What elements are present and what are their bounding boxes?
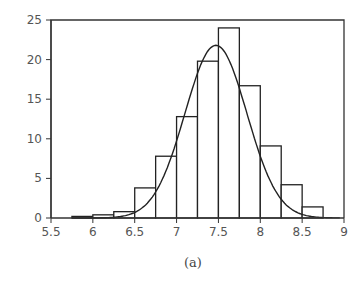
- y-tick-label: 20: [27, 53, 42, 67]
- x-tick-label: 7.5: [209, 225, 228, 239]
- x-tick-label: 7: [173, 225, 181, 239]
- x-tick-label: 6.5: [125, 225, 144, 239]
- y-tick-label: 15: [27, 92, 42, 106]
- histogram-chart: 5.566.577.588.590510152025 (a): [0, 0, 358, 283]
- histogram-bar: [239, 86, 260, 218]
- y-tick-label: 0: [34, 211, 42, 225]
- x-tick-label: 8.5: [293, 225, 312, 239]
- x-tick-label: 6: [89, 225, 97, 239]
- x-tick-label: 9: [340, 225, 348, 239]
- y-tick-label: 10: [27, 132, 42, 146]
- y-tick-label: 25: [27, 13, 42, 27]
- histogram-bars: [72, 28, 323, 218]
- x-tick-label: 8: [256, 225, 264, 239]
- figure-caption: (a): [184, 255, 202, 270]
- histogram-bar: [135, 188, 156, 218]
- y-tick-label: 5: [34, 171, 42, 185]
- x-tick-label: 5.5: [41, 225, 60, 239]
- histogram-bar: [198, 61, 219, 218]
- histogram-bar: [218, 28, 239, 218]
